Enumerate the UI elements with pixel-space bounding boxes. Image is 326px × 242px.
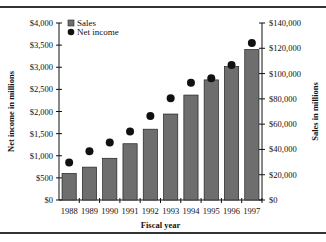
x-tick-label: 1997 (243, 206, 260, 216)
right-tick-label: $80,000 (269, 94, 297, 104)
net-income-dot (146, 112, 154, 120)
net-income-dot (106, 138, 114, 146)
sales-bar (62, 173, 76, 200)
net-income-dot (85, 147, 93, 155)
sales-bar (164, 114, 178, 200)
right-axis-title: Sales in millions (310, 82, 320, 141)
x-tick-label: 1988 (61, 206, 78, 216)
left-tick-label: $1,500 (30, 129, 53, 139)
x-tick-label: 1993 (162, 206, 179, 216)
sales-bar (143, 129, 157, 200)
net-income-dot (167, 94, 175, 102)
right-tick-label: $60,000 (269, 119, 297, 129)
net-income-dot (228, 61, 236, 69)
x-tick-label: 1991 (122, 206, 139, 216)
right-tick-label: $20,000 (269, 170, 297, 180)
legend-net-income-label: Net income (77, 27, 119, 37)
legend-sales-swatch (68, 20, 74, 26)
x-tick-label: 1995 (203, 206, 220, 216)
left-tick-label: $2,500 (30, 84, 53, 94)
left-axis-title: Net income in millions (6, 70, 16, 152)
net-income-dot (126, 127, 134, 135)
left-tick-label: $3,000 (30, 62, 53, 72)
left-tick-label: $2,000 (30, 107, 53, 117)
net-income-dot (187, 79, 195, 87)
net-income-dot (207, 74, 215, 82)
right-tick-label: $120,000 (269, 43, 301, 53)
right-tick-label: $100,000 (269, 69, 301, 79)
left-tick-label: $0 (45, 195, 54, 205)
x-tick-label: 1989 (81, 206, 98, 216)
x-tick-label: 1996 (223, 206, 240, 216)
left-tick-label: $4,000 (30, 18, 53, 28)
sales-bar (184, 95, 198, 200)
legend-net-income-swatch (68, 29, 75, 36)
left-tick-label: $500 (36, 173, 53, 183)
sales-bar (245, 50, 259, 200)
x-tick-label: 1990 (101, 206, 118, 216)
right-tick-label: $140,000 (269, 18, 301, 28)
sales-net-income-chart: $0$500$1,000$1,500$2,000$2,500$3,000$3,5… (0, 0, 326, 242)
x-tick-label: 1994 (182, 206, 200, 216)
net-income-dot (65, 158, 73, 166)
left-tick-label: $1,000 (30, 151, 53, 161)
sales-bar (82, 167, 96, 200)
right-tick-label: $40,000 (269, 144, 297, 154)
left-tick-label: $3,500 (30, 40, 53, 50)
right-tick-label: $0 (269, 195, 278, 205)
sales-bar (204, 80, 218, 200)
x-axis-title: Fiscal year (141, 220, 181, 230)
sales-bar (224, 67, 238, 200)
sales-bar (103, 158, 117, 200)
sales-bar (123, 144, 137, 200)
x-tick-label: 1992 (142, 206, 159, 216)
net-income-dot (248, 39, 256, 47)
